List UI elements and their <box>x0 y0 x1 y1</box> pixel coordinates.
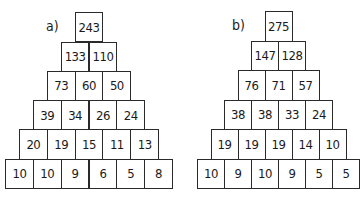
pyramid-b: b)27514712876715738383324191919141010910… <box>0 0 364 197</box>
pyramid-cell: 19 <box>265 129 293 160</box>
pyramid-label: b) <box>232 17 245 33</box>
pyramid-cell: 38 <box>251 100 279 131</box>
pyramid-cell: 9 <box>278 159 306 190</box>
pyramid-cell: 10 <box>251 159 279 190</box>
pyramid-cell: 76 <box>238 70 266 101</box>
pyramid-cell: 9 <box>224 159 252 190</box>
pyramid-cell: 275 <box>265 11 293 42</box>
pyramid-cell: 14 <box>292 129 320 160</box>
pyramid-cell: 57 <box>292 70 320 101</box>
pyramid-cell: 5 <box>332 159 360 190</box>
pyramid-cell: 38 <box>224 100 252 131</box>
pyramid-cell: 128 <box>278 41 306 72</box>
pyramid-cell: 5 <box>305 159 333 190</box>
pyramid-cell: 33 <box>278 100 306 131</box>
pyramid-cell: 19 <box>211 129 239 160</box>
pyramid-cell: 10 <box>197 159 225 190</box>
pyramid-cell: 71 <box>265 70 293 101</box>
pyramid-cell: 19 <box>238 129 266 160</box>
pyramid-cell: 10 <box>319 129 347 160</box>
pyramid-cell: 24 <box>305 100 333 131</box>
pyramid-cell: 147 <box>251 41 279 72</box>
